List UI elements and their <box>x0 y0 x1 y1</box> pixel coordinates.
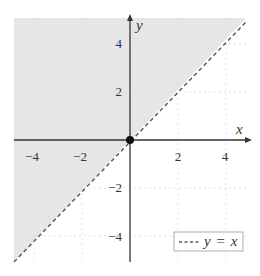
svg-text:y = x: y = x <box>202 233 238 249</box>
y-tick-label: −2 <box>108 180 122 195</box>
y-axis-label: y <box>134 17 143 33</box>
legend: y = x <box>174 232 243 251</box>
inequality-chart: x y −4 −2 2 4 4 2 −2 −4 y = x <box>0 0 260 276</box>
x-tick-label: −4 <box>25 149 39 164</box>
y-tick-label: 4 <box>116 36 123 51</box>
origin-point <box>126 136 134 144</box>
y-tick-label: 2 <box>116 84 123 99</box>
y-tick-label: −4 <box>108 229 122 244</box>
legend-label-x: x <box>230 233 238 249</box>
x-tick-label: 2 <box>175 149 182 164</box>
x-tick-label: −2 <box>73 149 87 164</box>
x-tick-label: 4 <box>222 149 229 164</box>
legend-label-eq: = <box>216 233 224 249</box>
x-axis-label: x <box>235 121 243 137</box>
legend-label-y: y <box>202 233 211 249</box>
y-axis-arrow-icon <box>127 14 133 21</box>
x-axis-arrow-icon <box>245 137 252 143</box>
